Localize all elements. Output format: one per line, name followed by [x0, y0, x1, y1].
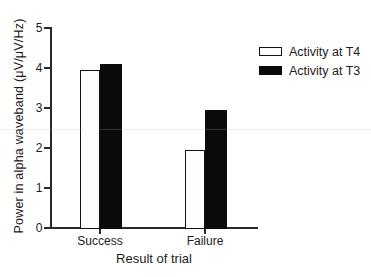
- legend-swatch-open-icon: [259, 47, 282, 56]
- legend-label-t3: Activity at T3: [289, 64, 360, 78]
- y-tick-mark: [44, 67, 51, 69]
- bar-failure-t4: [185, 150, 205, 229]
- y-axis-title: Power in alpha waveband (μV/μV/Hz): [12, 18, 26, 233]
- legend-item-activity-t3: Activity at T3: [259, 61, 360, 80]
- y-tick-mark: [44, 187, 51, 189]
- x-category-label: Failure: [163, 234, 247, 248]
- y-tick-label: 1: [21, 180, 43, 196]
- y-tick-mark: [44, 107, 51, 109]
- x-category-label: Success: [58, 234, 142, 248]
- scan-artifact-overlay: [0, 129, 371, 130]
- bar-success-t3: [100, 64, 122, 229]
- y-tick-label: 5: [21, 20, 43, 36]
- y-tick-label: 4: [21, 60, 43, 76]
- y-tick-mark: [44, 27, 51, 29]
- y-tick-label: 3: [21, 100, 43, 116]
- legend-item-activity-t4: Activity at T4: [259, 42, 360, 61]
- y-tick-mark: [44, 147, 51, 149]
- legend: Activity at T4 Activity at T3: [259, 42, 360, 80]
- legend-label-t4: Activity at T4: [289, 45, 360, 59]
- legend-swatch-filled-icon: [259, 66, 282, 75]
- x-axis-title: Result of trial: [116, 251, 192, 266]
- y-tick-label: 0: [21, 220, 43, 236]
- bar-chart-figure: Power in alpha waveband (μV/μV/Hz) 01234…: [0, 0, 371, 277]
- y-tick-mark: [44, 227, 51, 229]
- y-tick-label: 2: [21, 140, 43, 156]
- bar-success-t4: [80, 70, 100, 229]
